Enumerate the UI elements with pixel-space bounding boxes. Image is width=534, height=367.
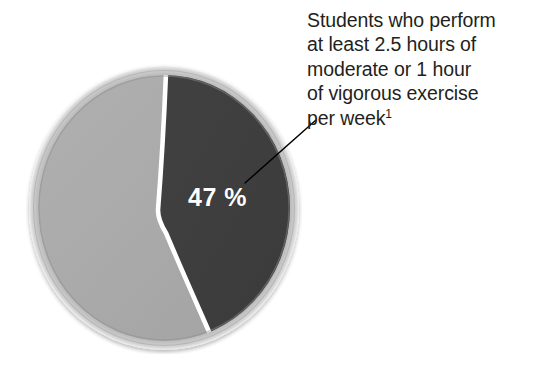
annotation-text-block: Students who perform at least 2.5 hours …: [307, 8, 533, 130]
pie-chart: [26, 62, 302, 354]
pie-chart-figure: 47 % Students who perform at least 2.5 h…: [0, 0, 534, 367]
annotation-line-4: of vigorous exercise: [307, 81, 533, 105]
pie-chart-svg: [26, 62, 302, 354]
footnote-marker: 1: [385, 106, 392, 120]
annotation-line-5: per week1: [307, 106, 533, 130]
annotation-line-2: at least 2.5 hours of: [307, 32, 533, 56]
slice-percentage-label: 47 %: [188, 183, 247, 212]
annotation-line-1: Students who perform: [307, 8, 533, 32]
annotation-line-5-text: per week: [307, 107, 385, 129]
annotation-line-3: moderate or 1 hour: [307, 57, 533, 81]
